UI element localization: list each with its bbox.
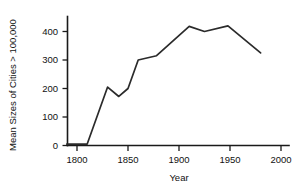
x-tick-label-1850: 1850 — [117, 154, 138, 165]
line-chart: Mean Sizes of Cities > 100,000 0 100 200… — [0, 0, 301, 195]
x-tick-label-1800: 1800 — [66, 154, 87, 165]
x-tick-label-1950: 1950 — [219, 154, 240, 165]
y-axis-title: Mean Sizes of Cities > 100,000 — [7, 19, 18, 151]
x-tick-label-1900: 1900 — [168, 154, 189, 165]
x-axis-title: Year — [169, 172, 188, 183]
chart-container: Mean Sizes of Cities > 100,000 0 100 200… — [0, 0, 301, 195]
x-axis-tick-labels: 1800 1850 1900 1950 2000 — [66, 154, 291, 165]
y-tick-label-200: 200 — [42, 83, 58, 94]
y-tick-label-100: 100 — [42, 111, 58, 122]
y-axis-tick-labels: 0 100 200 300 400 — [42, 26, 58, 151]
y-tick-label-300: 300 — [42, 54, 58, 65]
data-series-line — [67, 26, 261, 144]
x-axis-ticks — [77, 146, 281, 152]
y-tick-label-0: 0 — [53, 140, 58, 151]
y-tick-label-400: 400 — [42, 26, 58, 37]
x-tick-label-2000: 2000 — [270, 154, 291, 165]
